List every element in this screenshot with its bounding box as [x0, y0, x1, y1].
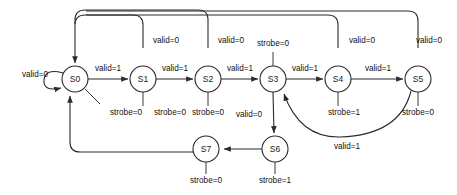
label-s4-to-s5: valid=1: [365, 64, 392, 73]
label-output-s4: strobe=1: [328, 108, 361, 117]
label-output-s6: strobe=1: [259, 176, 292, 185]
stub-s0-output: [85, 89, 100, 104]
edge-s1-to-s0: [75, 15, 143, 63]
label-s0-to-s1: valid=1: [95, 64, 122, 73]
label-s4-to-s0: valid=0: [349, 36, 376, 45]
label-output-s0: strobe=0: [110, 108, 143, 117]
label-s2-to-s3: valid=1: [227, 64, 254, 73]
state-node-s7[interactable]: S7: [193, 136, 219, 162]
state-label-s1: S1: [138, 74, 149, 84]
fsm-diagram: S0 S1 S2 S3 S4 S5 S6 S7: [0, 0, 457, 195]
state-node-s1[interactable]: S1: [130, 66, 156, 92]
state-label-s2: S2: [203, 74, 214, 84]
edge-s2-to-s0: [75, 10, 208, 48]
state-node-s0[interactable]: S0: [62, 66, 88, 92]
label-s1-to-s2: valid=1: [162, 64, 189, 73]
label-output-s5: strobe=0: [402, 108, 435, 117]
edge-s4-to-s0: [86, 15, 338, 48]
label-s0-self-loop: valid=0: [22, 70, 49, 79]
state-label-s6: S6: [270, 144, 281, 154]
state-node-s2[interactable]: S2: [195, 66, 221, 92]
fsm-canvas: S0 S1 S2 S3 S4 S5 S6 S7: [0, 0, 457, 195]
state-label-s5: S5: [413, 74, 424, 84]
state-node-s3[interactable]: S3: [260, 66, 286, 92]
state-label-s7: S7: [201, 144, 212, 154]
label-s1-to-s0: valid=0: [153, 36, 180, 45]
label-s5-to-s0: valid=0: [416, 36, 443, 45]
label-s3-to-s6: valid=0: [236, 110, 263, 119]
state-label-s3: S3: [268, 74, 279, 84]
label-s5-to-s3: valid=1: [334, 142, 361, 151]
state-node-s5[interactable]: S5: [405, 66, 431, 92]
label-output-s7: strobe=0: [190, 176, 223, 185]
edge-s7-to-s0: [70, 96, 193, 152]
label-output-s3: strobe=0: [257, 39, 290, 48]
label-output-s1: strobe=0: [154, 108, 187, 117]
state-node-s4[interactable]: S4: [325, 66, 351, 92]
state-label-s0: S0: [70, 74, 81, 84]
label-s2-to-s0: valid=0: [218, 36, 245, 45]
state-label-s4: S4: [333, 74, 344, 84]
edge-s3-to-s6: [273, 92, 274, 133]
label-output-s2: strobe=0: [192, 108, 225, 117]
state-node-s6[interactable]: S6: [262, 136, 288, 162]
label-s3-to-s4: valid=1: [292, 64, 319, 73]
